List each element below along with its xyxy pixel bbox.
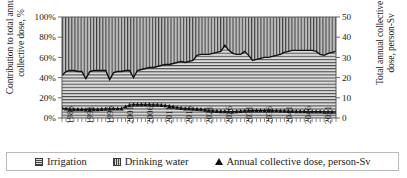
hatch-horizontal-swatch-icon [35, 158, 43, 166]
x-axis-tick-label: 1991 [85, 106, 95, 124]
x-axis-tick-label: 2046 [303, 106, 313, 124]
x-axis-tick-label: 2021 [204, 106, 214, 124]
x-axis-tick-labels: 1986199119962001200620112016202120262031… [0, 0, 407, 152]
triangle-marker-icon [215, 158, 223, 165]
legend-label-irrigation: Irrigation [47, 156, 87, 167]
chart-figure: Contribution to total annual collective … [0, 0, 407, 178]
x-axis-tick-label: 2031 [244, 106, 254, 124]
legend-item-annual-collective-dose[interactable]: Annual collective dose, person-Sv [215, 156, 371, 167]
x-axis-tick-label: 2026 [224, 106, 234, 124]
x-axis-tick-label: 2036 [264, 106, 274, 124]
x-axis-tick-label: 2001 [125, 106, 135, 124]
legend-item-drinking-water[interactable]: Drinking water [113, 156, 189, 167]
x-axis-tick-label: 2041 [284, 106, 294, 124]
chart-legend: Irrigation Drinking water Annual collect… [6, 152, 399, 171]
legend-label-annual-collective-dose: Annual collective dose, person-Sv [227, 156, 371, 167]
x-axis-tick-label: 2016 [184, 106, 194, 124]
x-axis-tick-label: 2011 [164, 106, 174, 124]
x-axis-tick-label: 2006 [145, 106, 155, 124]
x-axis-tick-label: 2051 [323, 106, 333, 124]
legend-label-drinking-water: Drinking water [125, 156, 189, 167]
x-axis-tick-label: 1996 [105, 106, 115, 124]
legend-item-irrigation[interactable]: Irrigation [35, 156, 87, 167]
hatch-vertical-swatch-icon [113, 158, 121, 166]
x-axis-tick-label: 1986 [65, 106, 75, 124]
